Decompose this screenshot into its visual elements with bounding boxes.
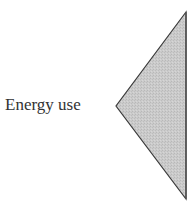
triangle-fill [116,12,186,199]
energy-triangle-shape [0,0,194,207]
